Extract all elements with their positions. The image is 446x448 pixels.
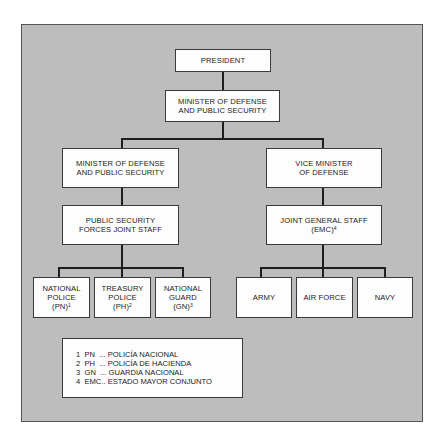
connector-branch-right — [322, 138, 324, 148]
connector-airforce — [322, 267, 324, 277]
node-vice-minister: VICE MINISTER OF DEFENSE — [266, 148, 382, 188]
abbreviation-legend: 1 PN ... POLICÍA NACIONAL 2 PH ... POLIC… — [62, 338, 243, 398]
node-air-force: AIR FORCE — [296, 277, 353, 318]
footnote-marker: 4 — [334, 225, 337, 231]
legend-num: 3 — [76, 368, 80, 377]
node-national-guard: NATIONAL GUARD (GN)3 — [155, 277, 211, 318]
node-label: AND PUBLIC SECURITY — [179, 106, 267, 115]
node-president: PRESIDENT — [175, 49, 271, 72]
legend-sep: .. — [101, 377, 105, 386]
legend-text: POLICÍA NACIONAL — [108, 350, 178, 359]
node-minister-left: MINISTER OF DEFENSE AND PUBLIC SECURITY — [62, 148, 179, 188]
footnote-marker: 2 — [129, 302, 132, 308]
node-label: NATIONAL — [42, 284, 80, 293]
node-label: AND PUBLIC SECURITY — [77, 168, 165, 177]
node-label: MINISTER OF DEFENSE — [178, 97, 267, 106]
legend-num: 2 — [76, 359, 80, 368]
node-minister-top: MINISTER OF DEFENSE AND PUBLIC SECURITY — [165, 90, 280, 122]
legend-sep: ... — [96, 368, 107, 377]
legend-num: 1 — [76, 350, 80, 359]
legend-abbr: PN — [84, 350, 95, 359]
node-label: (PN)1 — [52, 302, 71, 311]
legend-abbr: EMC — [84, 377, 101, 386]
node-label: NATIONAL — [164, 284, 202, 293]
node-national-police: NATIONAL POLICE (PN)1 — [33, 277, 90, 318]
legend-row: 4 EMC.. ESTADO MAYOR CONJUNTO — [76, 377, 242, 386]
footnote-marker: 3 — [190, 302, 193, 308]
node-label: JOINT GENERAL STAFF — [280, 216, 367, 225]
node-joint-general-staff: JOINT GENERAL STAFF (EMC)4 — [266, 205, 382, 245]
node-label: FORCES JOINT STAFF — [79, 225, 162, 234]
legend-sep: ... — [95, 359, 106, 368]
legend-num: 4 — [76, 377, 80, 386]
connector-branch-horizontal — [121, 138, 324, 140]
legend-text: ESTADO MAYOR CONJUNTO — [108, 377, 212, 386]
legend-row: 1 PN ... POLICÍA NACIONAL — [76, 350, 242, 359]
node-label-text: (PN) — [52, 302, 68, 311]
node-label: TREASURY — [101, 284, 143, 293]
node-label-text: (EMC) — [311, 225, 333, 234]
node-label-text: (PH) — [113, 302, 129, 311]
node-label: (GN)3 — [173, 302, 193, 311]
connector-navy — [384, 267, 386, 277]
node-navy: NAVY — [357, 277, 413, 318]
node-label: NAVY — [375, 293, 396, 302]
node-label: VICE MINISTER — [295, 159, 352, 168]
node-label: MINISTER OF DEFENSE — [76, 159, 165, 168]
node-label: PUBLIC SECURITY — [86, 216, 155, 225]
connector-army — [260, 267, 262, 277]
legend-row: 3 GN ... GUARDIA NACIONAL — [76, 368, 242, 377]
node-label: POLICE — [108, 293, 136, 302]
node-label: AIR FORCE — [303, 293, 345, 302]
legend-text: POLICÍA DE HACIENDA — [108, 359, 192, 368]
node-army: ARMY — [236, 277, 292, 318]
node-label: (PH)2 — [113, 302, 132, 311]
legend-sep: ... — [95, 350, 106, 359]
connector-np — [58, 267, 60, 277]
connector-vice-jgs — [322, 188, 324, 205]
connector-psforces-down — [121, 245, 123, 268]
legend-abbr: PH — [84, 359, 95, 368]
connector-ng — [182, 267, 184, 277]
node-label: (EMC)4 — [311, 225, 336, 234]
connector-president-minister — [222, 72, 224, 90]
node-label: ARMY — [253, 293, 275, 302]
node-label: POLICE — [47, 293, 75, 302]
connector-tp — [121, 267, 123, 277]
node-label: OF DEFENSE — [299, 168, 349, 177]
node-label-text: (GN) — [173, 302, 190, 311]
legend-text: GUARDIA NACIONAL — [109, 368, 184, 377]
connector-branch-left — [121, 138, 123, 148]
footnote-marker: 1 — [68, 302, 71, 308]
legend-abbr: GN — [84, 368, 95, 377]
node-ps-forces: PUBLIC SECURITY FORCES JOINT STAFF — [62, 205, 179, 245]
node-label: PRESIDENT — [201, 56, 245, 65]
legend-row: 2 PH ... POLICÍA DE HACIENDA — [76, 359, 242, 368]
node-label: GUARD — [169, 293, 197, 302]
node-treasury-police: TREASURY POLICE (PH)2 — [94, 277, 151, 318]
connector-minister-branch — [222, 122, 224, 139]
connector-left-minister-psforces — [121, 188, 123, 205]
connector-jgs-down — [322, 245, 324, 268]
